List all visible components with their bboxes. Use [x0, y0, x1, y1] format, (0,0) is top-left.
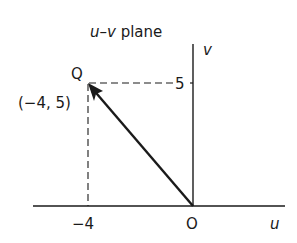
- u-axis-label: u: [270, 215, 280, 233]
- origin-label: O: [186, 215, 198, 233]
- title-dash: –: [100, 23, 108, 41]
- vector-OQ: [91, 87, 193, 206]
- v-axis-label: v: [203, 41, 213, 59]
- title-rest: plane: [116, 23, 162, 41]
- diagram-title: u–v plane: [90, 23, 162, 41]
- v-tick-label: 5: [175, 75, 185, 93]
- title-u: u: [90, 23, 100, 41]
- point-q-coords: (−4, 5): [18, 94, 71, 112]
- u-tick-label: −4: [72, 215, 94, 233]
- u-v-plane-diagram: u–v plane Q (−4, 5) 5 v −4 O u: [0, 0, 297, 243]
- point-q-label: Q: [71, 65, 83, 83]
